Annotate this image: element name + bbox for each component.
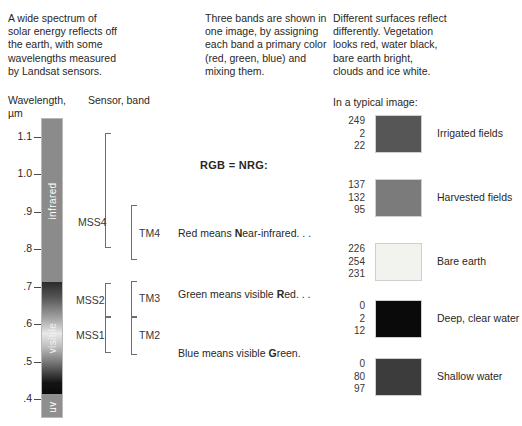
surface-sample-swatch	[375, 179, 422, 217]
rgb-line-suffix: reen.	[277, 347, 301, 359]
surface-sample-rgb-values: 13713295	[333, 179, 365, 217]
surface-sample-label: Shallow water	[437, 370, 502, 382]
spectrum-band-visible-label: visible	[47, 323, 58, 354]
rgb-value-g: 254	[333, 256, 365, 269]
surface-sample-row: 0212Deep, clear water	[333, 300, 522, 348]
bracket-tm2	[131, 317, 137, 355]
wavelength-tick-mark-p8	[34, 249, 41, 250]
bracket-mss1	[105, 317, 111, 353]
spectrum-band-uv-label: uv	[47, 401, 58, 412]
rgb-value-b: 22	[333, 140, 365, 153]
surface-sample-swatch	[375, 300, 422, 338]
sensor-band-label-tm4: TM4	[139, 227, 160, 239]
wavelength-tick-label-p6: .6	[8, 317, 32, 329]
wavelength-tick-mark-p6	[34, 324, 41, 325]
spectrum-band-uv: uv	[42, 394, 62, 418]
surface-sample-row: 13713295Harvested fields	[333, 179, 522, 227]
wavelength-tick-mark-p9	[34, 212, 41, 213]
rgb-line-prefix: Green means visible	[178, 288, 277, 300]
rgb-value-b: 97	[333, 383, 365, 396]
rgb-value-b: 12	[333, 325, 365, 338]
wavelength-tick-mark-1p0	[34, 174, 41, 175]
surface-sample-row: 226254231Bare earth	[333, 243, 522, 291]
surface-sample-row: 08097Shallow water	[333, 358, 522, 406]
surface-sample-swatch	[375, 243, 422, 281]
rgb-value-g: 132	[333, 192, 365, 205]
rgb-explainer-line-red: Red means Near-infrared. . .	[178, 227, 311, 239]
sensor-band-label-mss2: MSS2	[76, 294, 105, 306]
rgb-value-g: 2	[333, 128, 365, 141]
rgb-line-prefix: Red means	[178, 227, 235, 239]
rgb-value-r: 0	[333, 300, 365, 313]
rgb-value-r: 249	[333, 115, 365, 128]
rgb-line-suffix: ear-infrared. . .	[242, 227, 311, 239]
wavelength-tick-label-p4: .4	[8, 392, 32, 404]
rgb-value-b: 95	[333, 204, 365, 217]
surface-sample-swatch	[375, 358, 422, 396]
rgb-equals-nrg-heading: RGB = NRG:	[200, 159, 268, 171]
wavelength-axis-area: 1.11.0.9.8.7.6.5.4 infrared visible uv M…	[0, 0, 180, 426]
spectrum-band-infrared-label: infrared	[47, 182, 58, 219]
spectrum-band-infrared: infrared	[42, 119, 62, 282]
rgb-value-g: 80	[333, 371, 365, 384]
wavelength-tick-label-p5: .5	[8, 355, 32, 367]
surface-sample-row: 249222Irrigated fields	[333, 115, 522, 163]
surface-sample-swatch	[375, 115, 422, 153]
bracket-tm4	[131, 205, 137, 260]
rgb-line-emphasis: G	[268, 347, 276, 359]
rgb-explainer-line-blue: Blue means visible Green.	[178, 347, 301, 359]
wavelength-tick-label-p7: .7	[8, 280, 32, 292]
typical-image-heading: In a typical image:	[333, 96, 483, 109]
bracket-mss2	[105, 283, 111, 317]
wavelength-tick-mark-p7	[34, 287, 41, 288]
rgb-value-r: 0	[333, 358, 365, 371]
rgb-value-r: 137	[333, 179, 365, 192]
rgb-line-prefix: Blue means visible	[178, 347, 268, 359]
bracket-mss4	[105, 133, 111, 248]
rgb-value-b: 231	[333, 268, 365, 281]
sensor-band-label-mss1: MSS1	[76, 329, 105, 341]
wavelength-tick-label-1p0: 1.0	[8, 167, 32, 179]
rgb-value-g: 2	[333, 313, 365, 326]
wavelength-tick-mark-p4	[34, 399, 41, 400]
spectrum-color-bar: infrared visible uv	[41, 118, 63, 418]
wavelength-tick-label-1p1: 1.1	[8, 130, 32, 142]
surface-sample-rgb-values: 08097	[333, 358, 365, 396]
sensor-band-label-tm2: TM2	[139, 329, 160, 341]
surface-sample-label: Harvested fields	[437, 191, 512, 203]
sensor-band-label-mss4: MSS4	[78, 216, 107, 228]
bracket-tm3	[131, 281, 137, 317]
rgb-line-suffix: ed. . .	[284, 288, 310, 300]
wavelength-tick-label-p8: .8	[8, 242, 32, 254]
surface-sample-rgb-values: 226254231	[333, 243, 365, 281]
surface-sample-label: Deep, clear water	[437, 312, 519, 324]
wavelength-tick-mark-p5	[34, 362, 41, 363]
intro-paragraph-right: Different surfaces reflect differently. …	[333, 12, 508, 78]
surface-sample-rgb-values: 249222	[333, 115, 365, 153]
sensor-band-label-tm3: TM3	[139, 292, 160, 304]
surface-sample-label: Bare earth	[437, 255, 486, 267]
wavelength-tick-label-p9: .9	[8, 205, 32, 217]
surface-sample-label: Irrigated fields	[437, 127, 503, 139]
spectrum-band-visible: visible	[42, 282, 62, 394]
rgb-explainer-line-green: Green means visible Red. . .	[178, 288, 311, 300]
surface-sample-rgb-values: 0212	[333, 300, 365, 338]
rgb-value-r: 226	[333, 243, 365, 256]
wavelength-tick-mark-1p1	[34, 137, 41, 138]
